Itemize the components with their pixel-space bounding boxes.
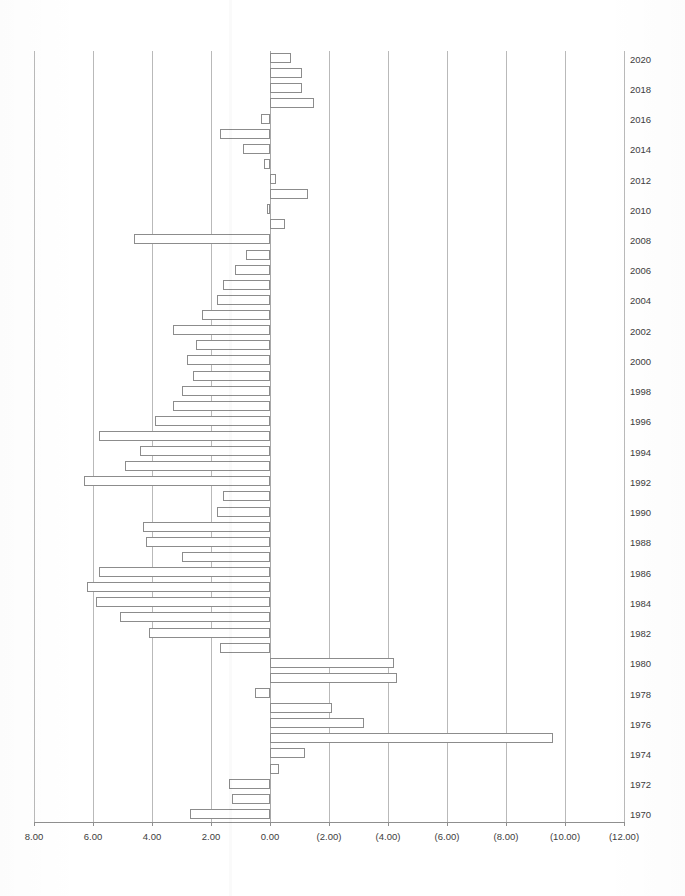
bar-1989 [143,522,270,532]
y-tick-label-1998: 1998 [630,386,651,397]
bar-2016 [261,114,270,124]
gridline-n4.00n [388,51,389,822]
bar-1996 [155,416,270,426]
y-tick-label-2006: 2006 [630,265,651,276]
y-tick-label-1992: 1992 [630,476,651,487]
bar-1970 [190,809,270,819]
x-tick-label: (4.00) [376,831,401,842]
bar-1985 [87,582,270,592]
bar-2004 [217,295,270,305]
bar-1999 [193,371,270,381]
x-tick-mark [270,822,271,826]
y-tick-label-2018: 2018 [630,83,651,94]
bar-1980 [270,658,394,668]
bar-1984 [96,597,270,607]
bar-1974 [270,748,305,758]
bar-1973 [270,764,279,774]
y-tick-label-2014: 2014 [630,144,651,155]
x-tick-mark [388,822,389,826]
bar-2013 [264,159,270,169]
bar-2018 [270,83,302,93]
bar-1990 [217,507,270,517]
y-tick-label-1986: 1986 [630,567,651,578]
gridline-n12.00n [624,51,625,822]
bar-2000 [187,355,270,365]
x-tick-mark [624,822,625,826]
x-tick-label: (2.00) [317,831,342,842]
bar-1977 [270,703,332,713]
bar-1979 [270,673,397,683]
y-tick-label-1978: 1978 [630,688,651,699]
chart-page: Real Interest Rates 1970-2020 8.006.004.… [0,0,685,896]
x-tick-mark [565,822,566,826]
y-tick-label-2020: 2020 [630,53,651,64]
bar-2020 [270,53,291,63]
gridline-n8.00n [506,51,507,822]
plot-area [34,51,624,822]
bar-2014 [243,144,270,154]
bar-2001 [196,340,270,350]
y-tick-label-1990: 1990 [630,507,651,518]
bar-1991 [223,491,270,501]
x-tick-label: (10.00) [550,831,580,842]
bar-1976 [270,718,364,728]
y-tick-label-2012: 2012 [630,174,651,185]
y-tick-label-1972: 1972 [630,779,651,790]
y-tick-label-2004: 2004 [630,295,651,306]
y-tick-label-1976: 1976 [630,718,651,729]
bar-2015 [220,129,270,139]
bar-1997 [173,401,270,411]
bar-2002 [173,325,270,335]
bar-2010 [267,204,270,214]
bar-1982 [149,628,270,638]
x-tick-label: 4.00 [143,831,162,842]
bar-2017 [270,98,314,108]
x-tick-mark [152,822,153,826]
bar-1978 [255,688,270,698]
x-tick-label: 8.00 [25,831,44,842]
bar-1986 [99,567,270,577]
y-tick-label-2010: 2010 [630,204,651,215]
bar-1971 [232,794,270,804]
bar-1992 [84,476,270,486]
bar-2007 [246,250,270,260]
bar-2006 [235,265,270,275]
bar-1987 [182,552,271,562]
gridline-6.00 [93,51,94,822]
bar-1983 [120,612,270,622]
bar-2009 [270,219,285,229]
gridline-n10.00n [565,51,566,822]
y-tick-label-1996: 1996 [630,416,651,427]
bar-2019 [270,68,302,78]
x-tick-mark [329,822,330,826]
x-tick-mark [211,822,212,826]
y-tick-label-2000: 2000 [630,355,651,366]
bar-2011 [270,189,308,199]
gridline-n6.00n [447,51,448,822]
bar-1981 [220,643,270,653]
bar-1995 [99,431,270,441]
y-tick-label-2008: 2008 [630,234,651,245]
bar-2005 [223,280,270,290]
x-tick-mark [447,822,448,826]
bar-2003 [202,310,270,320]
y-tick-label-1974: 1974 [630,748,651,759]
bar-2012 [270,174,276,184]
x-tick-label: (8.00) [494,831,519,842]
x-tick-label: (6.00) [435,831,460,842]
x-tick-label: (12.00) [609,831,639,842]
y-tick-label-1994: 1994 [630,446,651,457]
bar-1993 [125,461,270,471]
y-tick-label-1982: 1982 [630,628,651,639]
y-tick-label-1988: 1988 [630,537,651,548]
x-tick-mark [34,822,35,826]
y-tick-label-1984: 1984 [630,597,651,608]
bar-1972 [229,779,270,789]
bar-1998 [182,386,271,396]
x-tick-label: 6.00 [84,831,103,842]
x-tick-mark [506,822,507,826]
y-tick-label-2016: 2016 [630,114,651,125]
y-tick-label-2002: 2002 [630,325,651,336]
bar-2008 [134,234,270,244]
x-tick-mark [93,822,94,826]
